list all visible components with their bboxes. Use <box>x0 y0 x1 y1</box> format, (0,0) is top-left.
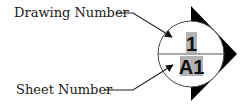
section-marker-diagram: 1 A1 Drawing Number Sheet Number <box>0 0 251 109</box>
drawing-number-value: 1 <box>186 33 197 55</box>
sheet-number-value: A1 <box>179 56 205 78</box>
sheet-number-label: Sheet Number <box>16 82 113 97</box>
drawing-number-label: Drawing Number <box>14 5 130 20</box>
